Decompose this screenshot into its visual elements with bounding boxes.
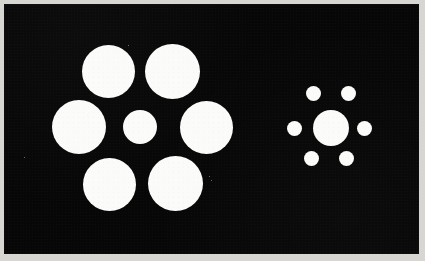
right-cluster-inducers-small-top-left [306,86,321,101]
print-speck-1 [87,115,88,116]
right-cluster-inducers-small-mid-left [287,121,302,136]
illusion-figure [0,0,425,261]
right-cluster-inducers-small-mid-right [357,121,372,136]
print-speck-2 [24,157,25,158]
right-cluster-target-center-target-right [313,110,349,146]
right-cluster-inducers-small-bottom-right [339,151,354,166]
print-speck-3 [211,180,212,181]
right-cluster [4,4,419,254]
print-speck-4 [209,176,210,177]
print-speck-0 [128,45,129,46]
right-cluster-inducers-small-top-right [341,86,356,101]
right-cluster-inducers-small-bottom-left [304,151,319,166]
black-panel [4,4,419,254]
